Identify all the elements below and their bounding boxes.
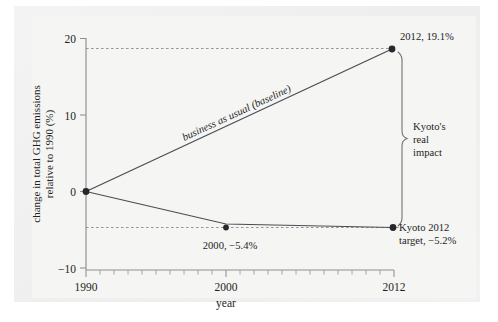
- x-tick-label-2000: 2000: [215, 281, 238, 293]
- y-tick-label-10: 10: [65, 110, 77, 122]
- y-axis-title-line1: change in total GHG emissions: [30, 85, 42, 222]
- target-label-line1: Kyoto 2012: [399, 222, 449, 233]
- figure-page: 20 10 0 −10 1990 2000 2012 year change i…: [0, 0, 498, 322]
- y-tick-label-0: 0: [70, 186, 76, 198]
- bracket-label-line1: Kyoto's: [413, 121, 446, 132]
- x-minor-ticks: [100, 270, 380, 275]
- curve-label-business-as-usual: business as usual (baseline): [180, 83, 293, 144]
- line-chart: 20 10 0 −10 1990 2000 2012 year change i…: [0, 0, 498, 322]
- x-axis-title: year: [216, 297, 236, 310]
- x-tick-label-1990: 1990: [75, 281, 98, 293]
- x-tick-label-2012: 2012: [383, 281, 406, 293]
- bracket-label-line3: impact: [413, 147, 442, 158]
- annotation-label-2000: 2000, −5.4%: [203, 240, 258, 251]
- annotation-label-2012: 2012, 19.1%: [400, 31, 454, 42]
- data-point-baseline-1990: [83, 188, 90, 195]
- bracket-label-line2: real: [413, 134, 429, 145]
- target-label-line2: target, −5.2%: [399, 235, 456, 246]
- y-axis-title-line2: relative to 1990 (%): [43, 110, 56, 199]
- series-line-business-as-usual: [86, 49, 392, 192]
- y-tick-label-20: 20: [65, 33, 77, 45]
- data-point-actual-2012: [390, 224, 397, 231]
- data-point-actual-2000: [223, 225, 229, 231]
- y-tick-label-neg10: −10: [58, 263, 76, 275]
- kyoto-impact-bracket: [398, 52, 407, 226]
- data-point-baseline-2012: [389, 46, 396, 53]
- series-line-actual-emissions: [86, 192, 393, 228]
